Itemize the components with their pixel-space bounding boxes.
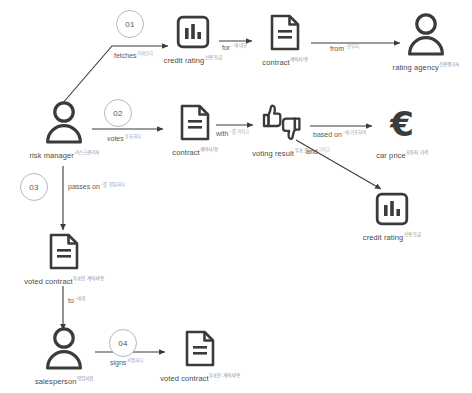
edge-label-from: from~로부터: [330, 45, 359, 53]
document-icon: [180, 104, 210, 141]
step-badge-02-label: 02: [113, 109, 123, 118]
edge-gloss-for: ~에 대한: [231, 43, 247, 48]
node-label-voted-contract-bottom: voted contract투표된 계약서/용: [160, 373, 240, 383]
node-voted-contract-mid: voted contract투표된 계약서/용: [36, 233, 92, 286]
person-icon: [406, 12, 446, 56]
edge-label-votes-text: votes: [107, 135, 124, 142]
edge-label-based-on-text: based on: [313, 131, 342, 138]
edge-label-passes-on-text: passes on: [68, 183, 100, 190]
edge-gloss-to: ~에게: [75, 296, 86, 301]
node-label-risk-manager: risk manager리스크관리자: [29, 150, 98, 160]
step-badge-01-label: 01: [125, 20, 135, 29]
edge-gloss-based-on: ~에 기초하여: [343, 130, 367, 135]
edge-gloss-with: ~를 가지고: [229, 129, 249, 134]
node-label-rating-agency-text: rating agency: [393, 63, 439, 72]
node-label-car-price: car price자동차 가격: [376, 150, 428, 160]
node-gloss-voted-contract-mid: 투표된 계약서/용: [73, 276, 104, 281]
node-label-contract-top: contract계약서/용: [262, 57, 307, 67]
thumbs-vote-icon: [260, 102, 304, 142]
bar-chart-icon: [375, 192, 409, 226]
node-gloss-credit-rating-bottom: 신용 등급: [404, 232, 421, 237]
node-label-voting-result-text: voting result: [252, 149, 294, 158]
person-icon: [44, 326, 84, 370]
node-credit-rating-bottom: credit rating신용 등급: [364, 192, 420, 242]
node-label-credit-rating-top: credit rating신용 등급: [164, 55, 222, 65]
edge-label-fetches: fetches가져오다: [114, 52, 153, 60]
node-gloss-voted-contract-bottom: 투표된 계약서/용: [209, 373, 240, 378]
node-gloss-contract-mid: 계약서/용: [200, 147, 217, 152]
edge-gloss-fetches: 가져오다: [137, 51, 153, 56]
euro-symbol: €: [390, 107, 414, 141]
node-risk-manager: risk manager리스크관리자: [36, 100, 92, 160]
step-badge-03: 03: [20, 173, 48, 201]
edge-gloss-and: 그리고: [318, 147, 330, 152]
document-icon: [270, 14, 300, 51]
node-gloss-rating-agency: 신용평가사: [439, 62, 459, 67]
node-label-voted-contract-bottom-text: voted contract: [160, 374, 209, 383]
node-car-price: € car price자동차 가격: [374, 104, 430, 160]
edge-label-based-on: based on~에 기초하여: [313, 131, 366, 139]
edge-label-for: for~에 대한: [222, 44, 247, 52]
node-credit-rating-top: credit rating신용 등급: [165, 15, 221, 65]
node-label-rating-agency: rating agency신용평가사: [393, 62, 460, 72]
edge-label-fetches-text: fetches: [114, 52, 137, 59]
node-gloss-contract-top: 계약서/용: [290, 57, 307, 62]
diagram-canvas: 01 02 03 04 fetches가져오다 for~에 대한 from~로부…: [0, 0, 472, 393]
step-badge-01: 01: [116, 10, 144, 38]
person-icon: [44, 100, 84, 144]
step-badge-03-label: 03: [29, 183, 39, 192]
node-contract-top: contract계약서/용: [258, 14, 312, 67]
node-label-credit-rating-bottom: credit rating신용 등급: [363, 232, 421, 242]
step-badge-02: 02: [104, 99, 132, 127]
edge-label-signs-text: signs: [110, 359, 126, 366]
edge-label-signs: signs서명하다: [110, 359, 143, 367]
node-rating-agency: rating agency신용평가사: [398, 12, 454, 72]
node-label-contract-mid: contract계약서/용: [172, 147, 217, 157]
node-label-contract-mid-text: contract: [172, 148, 199, 157]
edge-label-votes: votes투표하다: [107, 135, 141, 143]
node-contract-mid: contract계약서/용: [168, 104, 222, 157]
node-voted-contract-bottom: voted contract투표된 계약서/용: [172, 330, 228, 383]
document-icon: [185, 330, 215, 367]
node-gloss-credit-rating-top: 신용 등급: [205, 55, 222, 60]
edge-gloss-from: ~로부터: [345, 44, 360, 49]
node-label-salesperson-text: salesperson: [35, 377, 77, 386]
node-label-credit-rating-top-text: credit rating: [164, 56, 205, 65]
node-label-salesperson: salesperson영업사원: [35, 376, 93, 386]
step-badge-04-label: 04: [118, 339, 128, 348]
edge-label-from-text: from: [330, 45, 344, 52]
euro-icon: €: [390, 104, 414, 144]
node-gloss-risk-manager: 리스크관리자: [75, 150, 99, 155]
node-label-car-price-text: car price: [376, 151, 406, 160]
edge-gloss-votes: 투표하다: [125, 134, 141, 139]
node-label-voting-result: voting result투표 결과: [252, 148, 312, 158]
edge-label-to: to~에게: [68, 297, 85, 305]
node-label-contract-top-text: contract: [262, 58, 289, 67]
node-label-credit-rating-bottom-text: credit rating: [363, 233, 404, 242]
node-label-risk-manager-text: risk manager: [29, 151, 74, 160]
node-label-voted-contract-mid: voted contract투표된 계약서/용: [24, 276, 104, 286]
node-gloss-voting-result: 투표 결과: [295, 148, 312, 153]
edge-label-passes-on: passes on~를 전달하다: [68, 183, 125, 191]
edge-label-for-text: for: [222, 44, 230, 51]
edge-gloss-signs: 서명하다: [127, 358, 143, 363]
node-label-voted-contract-mid-text: voted contract: [24, 277, 73, 286]
edge-gloss-passes-on: ~를 전달하다: [101, 182, 125, 187]
document-icon: [49, 233, 79, 270]
bar-chart-icon: [176, 15, 210, 49]
node-gloss-salesperson: 영업사원: [77, 376, 93, 381]
step-badge-04: 04: [109, 329, 137, 357]
node-gloss-car-price: 자동차 가격: [406, 150, 427, 155]
node-salesperson: salesperson영업사원: [36, 326, 92, 386]
node-voting-result: voting result투표 결과: [252, 102, 312, 158]
edge-label-to-text: to: [68, 297, 74, 304]
